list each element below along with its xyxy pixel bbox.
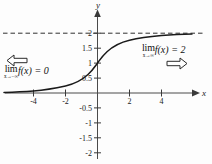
left-limit-annotation: lim x→−∞ f(x) = 0: [4, 64, 49, 79]
x-tick-labels: -4 -2 2 4: [30, 97, 163, 106]
y-axis-arrowhead: [94, 10, 101, 18]
right-lim-subscript: x→∞: [142, 53, 155, 58]
y-tick-label: 0.5: [82, 74, 92, 83]
y-tick-label: -0.5: [79, 104, 92, 113]
left-limit-operator: lim x→−∞: [4, 64, 18, 79]
y-tick-label: -2: [85, 149, 92, 158]
y-axis-label: y: [95, 0, 100, 10]
x-tick-label: 4: [160, 97, 164, 106]
x-tick-label: -4: [30, 97, 37, 106]
x-tick-label: -2: [62, 97, 69, 106]
x-tick-label: 2: [128, 97, 132, 106]
figure-container: -4 -2 2 4 2 1.5 1 0.5 -0.5 -1 -1.5 -2 x …: [0, 0, 212, 164]
y-tick-label: 2: [88, 29, 92, 38]
y-tick-label: 1.5: [82, 44, 92, 53]
left-lim-subscript: x→−∞: [4, 74, 18, 79]
right-limit-body: f(x) = 2: [155, 44, 186, 55]
y-tick-label: 1: [88, 59, 92, 68]
x-axis-label: x: [201, 88, 206, 98]
right-limit-operator: lim x→∞: [142, 43, 155, 58]
x-axis-arrowhead: [192, 90, 200, 97]
right-block-arrow-icon: [166, 57, 188, 70]
left-limit-body: f(x) = 0: [18, 65, 49, 76]
y-tick-label: -1: [85, 119, 92, 128]
right-limit-annotation: lim x→∞ f(x) = 2: [142, 43, 185, 58]
graph-canvas: -4 -2 2 4 2 1.5 1 0.5 -0.5 -1 -1.5 -2 x …: [0, 0, 212, 164]
y-tick-label: -1.5: [79, 134, 92, 143]
